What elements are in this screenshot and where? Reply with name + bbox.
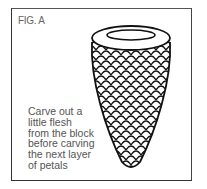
carved-cone-illustration — [86, 20, 176, 172]
cone-top-opening — [107, 30, 155, 40]
figure-label: FIG. A — [18, 15, 45, 26]
figure-caption: Carve out a little flesh from the block … — [28, 106, 95, 171]
